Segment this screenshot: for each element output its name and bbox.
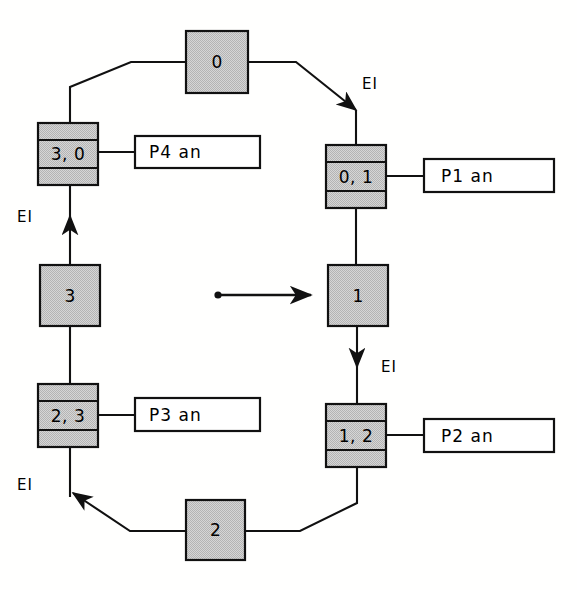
edge-p2-t23 — [73, 493, 186, 531]
annotation-label-p3: P3 an — [149, 398, 261, 431]
transition-label-2-3: 2, 3 — [38, 401, 98, 430]
transition-label-3-0: 3, 0 — [38, 140, 98, 168]
edge-p0-t01-segment — [248, 62, 356, 110]
annotation-label-p4: P4 an — [149, 136, 261, 168]
place-label-1: 1 — [328, 265, 388, 326]
edge-p0-t30 — [70, 62, 186, 123]
place-label-2: 2 — [186, 500, 245, 560]
arrow-label-ei-top-right: EI — [362, 75, 378, 93]
arrow-label-ei-mid-left: EI — [17, 208, 33, 226]
arrow-label-ei-mid-right: EI — [381, 358, 397, 376]
token-indicator — [214, 291, 311, 298]
edge-t12-p2 — [245, 467, 357, 531]
transition-label-0-1: 0, 1 — [326, 162, 386, 191]
annotation-label-p2: P2 an — [441, 419, 557, 452]
transition-label-1-2: 1, 2 — [326, 421, 386, 450]
diagram-canvas: 0 1 2 3 3, 0 0, 1 1, 2 2, 3 P4 an P1 an … — [0, 0, 577, 590]
place-label-0: 0 — [186, 31, 248, 93]
annotation-label-p1: P1 an — [441, 159, 557, 192]
place-label-3: 3 — [40, 265, 100, 326]
arrow-label-ei-bottom-left: EI — [17, 476, 33, 494]
